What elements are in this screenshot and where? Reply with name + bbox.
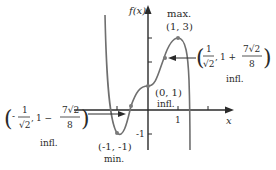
inflection-point-right <box>163 56 167 60</box>
svg-text:-: - <box>12 111 15 121</box>
svg-text:8: 8 <box>67 120 73 130</box>
min-coords-label: (-1, -1) <box>98 141 132 152</box>
origin-inflection-kind: infl. <box>157 99 175 109</box>
svg-text:√2: √2 <box>203 59 214 69</box>
arrow-head-right-icon <box>118 111 126 117</box>
svg-text:): ) <box>81 106 90 131</box>
svg-text:1: 1 <box>22 105 28 115</box>
svg-text:): ) <box>263 45 272 70</box>
svg-text:1: 1 <box>206 44 212 54</box>
svg-text:,: , <box>31 113 34 123</box>
x-axis-label: x <box>226 115 232 126</box>
function-graph: f(x) x 1 -1 max. (1, 3) (0, 1) infl. (-1… <box>0 0 276 170</box>
origin-inflection-coords: (0, 1) <box>155 87 182 98</box>
inflection-point-origin <box>146 84 150 88</box>
right-inflection-label: ( 1 √2 , 1 + 7√2 8 ) infl. <box>196 44 272 84</box>
max-point <box>176 36 180 40</box>
svg-text:1 +: 1 + <box>220 52 236 62</box>
svg-text:7√2: 7√2 <box>62 105 79 115</box>
x-axis-arrow-icon <box>225 107 234 114</box>
x-tick-label-1: 1 <box>175 115 181 125</box>
min-point <box>115 131 119 135</box>
svg-text:,: , <box>215 52 218 62</box>
arrow-head-left-icon <box>168 55 176 61</box>
min-kind-label: min. <box>104 154 124 164</box>
y-tick-label-neg1: -1 <box>136 129 145 139</box>
left-inflection-kind: infl. <box>40 138 58 148</box>
left-inflection-label: ( - 1 √2 , 1 − 7√2 8 ) infl. <box>4 105 90 148</box>
svg-text:√2: √2 <box>19 120 30 130</box>
inflection-point-left <box>129 104 133 108</box>
right-inflection-kind: infl. <box>226 74 244 84</box>
svg-text:8: 8 <box>249 59 255 69</box>
max-kind-label: max. <box>167 8 191 19</box>
svg-text:1 −: 1 − <box>36 113 52 123</box>
y-axis-label: f(x) <box>128 5 146 16</box>
svg-text:7√2: 7√2 <box>243 44 260 54</box>
max-coords-label: (1, 3) <box>166 21 193 32</box>
